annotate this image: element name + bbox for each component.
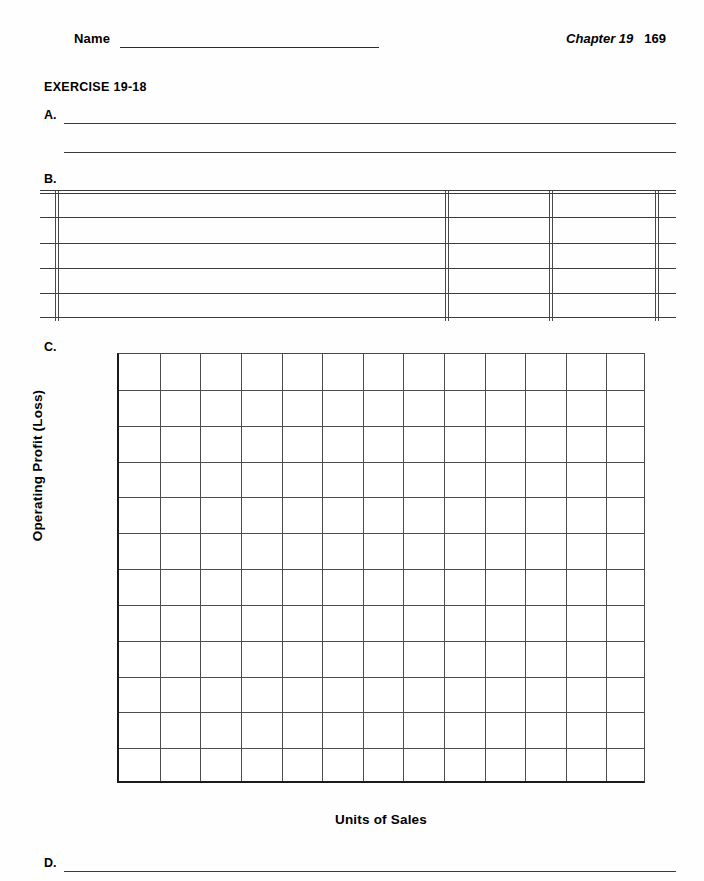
name-label: Name — [74, 31, 110, 46]
page-header: Name Chapter 19169 — [0, 0, 704, 60]
grid-vline — [200, 354, 201, 781]
chart-x-axis-label: Units of Sales — [117, 812, 645, 827]
section-letter-b: B. — [44, 172, 57, 186]
table-column-rule-right — [655, 191, 659, 321]
grid-hline — [119, 390, 644, 391]
grid-vline — [241, 354, 242, 781]
grid-vline — [485, 354, 486, 781]
worksheet-page: Name Chapter 19169 EXERCISE 19-18 A. B. … — [0, 0, 704, 881]
table-row-rule[interactable] — [40, 217, 676, 218]
page-number: 169 — [644, 31, 666, 46]
answer-line-a2[interactable] — [64, 152, 676, 153]
grid-hline — [119, 712, 644, 713]
table-row-rule[interactable] — [40, 293, 676, 294]
grid-hline — [119, 641, 644, 642]
chapter-label: Chapter 19 — [566, 31, 633, 46]
grid-hline — [119, 748, 644, 749]
grid-vline — [322, 354, 323, 781]
table-column-rule-1 — [445, 191, 449, 321]
table-row-rule[interactable] — [40, 268, 676, 269]
table-column-rule-left — [55, 191, 59, 321]
grid-vline — [444, 354, 445, 781]
grid-hline — [119, 426, 644, 427]
grid-hline — [119, 605, 644, 606]
grid-hline — [119, 533, 644, 534]
table-column-rule-2 — [549, 191, 553, 321]
chapter-page-indicator: Chapter 19169 — [566, 31, 666, 46]
table-row-rule[interactable] — [40, 243, 676, 244]
answer-line-a1[interactable] — [64, 123, 676, 124]
name-write-in-line[interactable] — [120, 47, 379, 48]
grid-vline — [566, 354, 567, 781]
table-row-rule[interactable] — [40, 317, 676, 318]
chart-y-axis-label: Operating Profit (Loss) — [30, 351, 45, 581]
grid-hline — [119, 677, 644, 678]
chart-c: Operating Profit (Loss) — [40, 350, 680, 850]
grid-vline — [282, 354, 283, 781]
grid-hline — [119, 569, 644, 570]
grid-vline — [403, 354, 404, 781]
grid-vline — [525, 354, 526, 781]
grid-vline — [160, 354, 161, 781]
grid-hline — [119, 497, 644, 498]
accounting-table-b[interactable] — [40, 190, 676, 322]
grid-vline — [606, 354, 607, 781]
chart-plot-grid[interactable] — [117, 353, 645, 783]
exercise-title: EXERCISE 19-18 — [44, 80, 147, 94]
table-top-double-rule — [40, 190, 676, 194]
grid-hline — [119, 462, 644, 463]
section-letter-a: A. — [44, 108, 57, 122]
section-letter-d: D. — [44, 856, 57, 870]
grid-vline — [363, 354, 364, 781]
answer-line-d1[interactable] — [64, 871, 676, 872]
